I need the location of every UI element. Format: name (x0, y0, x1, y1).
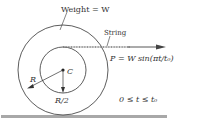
arrow-head-icon (156, 45, 166, 50)
outer-radius-arrowhead-icon (27, 84, 34, 89)
string-label: String (104, 29, 127, 37)
string-leader (107, 36, 110, 46)
inner-radius-label: R/2 (54, 96, 69, 105)
outer-radius-label: R (29, 75, 36, 84)
ground-surface (1, 115, 167, 118)
time-range-label: 0 ≤ t ≤ t₀ (119, 95, 158, 104)
force-label: P = W sin(πt/t₀) (109, 54, 174, 63)
inner-radius-arrowhead-icon (61, 87, 65, 93)
center-label: C (67, 67, 73, 76)
weight-leader (60, 12, 67, 30)
weight-label: Weight = W (61, 5, 110, 14)
spool-diagram: Weight = W String P = W sin(πt/t₀) C R R… (0, 0, 198, 125)
